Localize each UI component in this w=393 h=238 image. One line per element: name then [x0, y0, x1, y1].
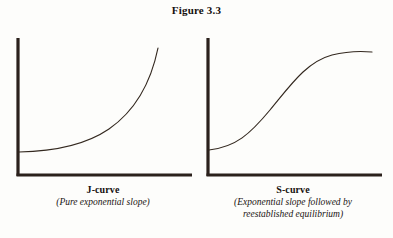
caption-subtitle-j-curve: (Pure exponential slope): [8, 197, 198, 209]
caption-subtitle-s-curve-line2: reestablished equilibrium): [198, 209, 388, 221]
panel-s-curve: [198, 34, 388, 184]
panel-j-curve: [8, 34, 198, 184]
caption-s-curve: S-curve (Exponential slope followed by r…: [198, 184, 388, 220]
caption-title-s-curve: S-curve: [198, 184, 388, 196]
caption-subtitle-s-curve-line1: (Exponential slope followed by: [198, 197, 388, 209]
figure-container: Figure 3.3 J-: [0, 0, 393, 238]
caption-j-curve: J-curve (Pure exponential slope): [8, 184, 198, 209]
j-curve-chart: [8, 34, 198, 184]
plot-area-s-curve: [198, 34, 388, 184]
caption-title-j-curve: J-curve: [8, 184, 198, 196]
j-curve-line: [19, 48, 158, 152]
s-curve-line: [209, 51, 372, 150]
s-curve-chart: [198, 34, 388, 184]
figure-title: Figure 3.3: [0, 4, 393, 16]
plot-area-j-curve: [8, 34, 198, 184]
